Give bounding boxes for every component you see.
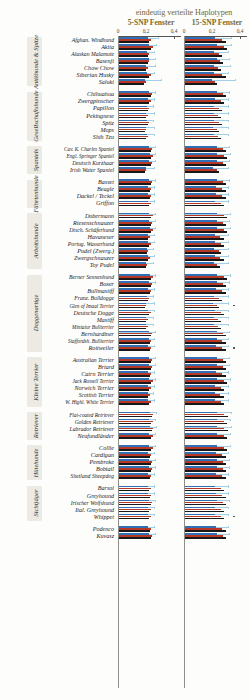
error-bar-cap: [154, 127, 155, 129]
error-bar-cap: [231, 426, 232, 428]
table-row: [119, 485, 181, 492]
error-bar-cap: [230, 445, 231, 447]
breed-label: Dackel / Teckel: [44, 193, 114, 200]
breed-label: Franz. Bulldogge: [44, 295, 114, 302]
error-bar-cap: [155, 146, 156, 148]
data-bar: [185, 238, 224, 240]
data-bar: [185, 131, 219, 133]
breed-label: Zwergschnauzer: [44, 255, 114, 262]
data-bar: [185, 292, 226, 294]
table-row: [185, 513, 247, 520]
table-row: [185, 262, 247, 269]
error-bar-cap: [229, 281, 230, 283]
error-bar-cap: [155, 445, 156, 447]
table-row: [119, 91, 181, 98]
table-row: [185, 302, 247, 309]
data-bar: [185, 110, 222, 112]
breed-label: Collie: [44, 445, 114, 452]
data-bar: [185, 423, 227, 425]
breed-label: Havaneser: [44, 234, 114, 241]
breed-label: Shih Tzu: [44, 134, 114, 141]
breed-label: Mastiff: [44, 317, 114, 324]
error-bar-cap: [155, 357, 156, 359]
table-row: [185, 112, 247, 119]
table-row: [119, 378, 181, 385]
data-bar: [185, 102, 224, 104]
breed-label: Cav. K. Charles Spaniel: [44, 146, 114, 153]
table-row: [119, 357, 181, 364]
table-row: [119, 37, 181, 44]
breed-label: Engl. Springer Spaniel: [44, 153, 114, 160]
table-row: [185, 241, 247, 248]
breed-label: Cardigan: [44, 452, 114, 459]
table-row: [185, 533, 247, 540]
data-bar: [119, 95, 151, 97]
data-bar: [185, 266, 220, 268]
outlier-point: [233, 516, 234, 517]
error-bar-cap: [155, 227, 156, 229]
table-row: [119, 345, 181, 352]
table-row: [119, 186, 181, 193]
table-row: [185, 248, 247, 255]
table-row: [185, 234, 247, 241]
error-bar-cap: [155, 91, 156, 93]
breed-label: Saluki: [44, 79, 114, 86]
error-bar-cap: [155, 378, 156, 380]
breed-label: Whippet: [44, 514, 114, 521]
table-row: [119, 323, 181, 330]
error-bar-cap: [154, 241, 155, 243]
data-bar: [119, 238, 148, 240]
table-row: [185, 378, 247, 385]
breed-label: Norwich Terrier: [44, 385, 114, 392]
table-row: [119, 281, 181, 288]
error-bar-cap: [229, 466, 230, 468]
error-bar-cap: [153, 392, 154, 394]
data-bar: [119, 335, 151, 337]
error-bar-cap: [154, 255, 155, 257]
error-bar-cap: [155, 433, 156, 435]
table-row: [185, 371, 247, 378]
error-bar-cap: [230, 419, 231, 421]
data-bar: [119, 321, 146, 323]
error-bar-cap: [154, 134, 155, 136]
table-row: [185, 466, 247, 473]
data-bar: [185, 197, 226, 199]
data-bar: [119, 403, 149, 405]
breed-label: Miniatur Bullterrier: [44, 324, 114, 331]
data-bar: [119, 259, 148, 261]
error-bar-cap: [155, 220, 156, 222]
data-bar: [119, 69, 146, 71]
table-row: [119, 167, 181, 174]
table-row: [119, 316, 181, 323]
data-bar: [119, 511, 149, 513]
error-bar-cap: [154, 399, 155, 401]
table-row: [185, 58, 247, 65]
error-bar-cap: [228, 452, 229, 454]
data-bar: [119, 292, 150, 294]
data-bar: [119, 110, 148, 112]
data-bar: [185, 69, 221, 71]
data-bar: [119, 504, 151, 506]
error-bar-cap: [228, 248, 229, 250]
outlier-point: [233, 305, 234, 306]
data-bar: [185, 518, 224, 520]
axis-tick-label: 0,2: [143, 28, 150, 34]
data-bar: [185, 285, 226, 287]
plot-panel-15snp: [184, 36, 247, 688]
table-row: [119, 533, 181, 540]
table-row: [119, 295, 181, 302]
table-row: [185, 213, 247, 220]
table-row: [119, 385, 181, 392]
data-bar: [119, 300, 148, 302]
table-row: [185, 119, 247, 126]
error-bar-cap: [235, 79, 236, 81]
table-row: [185, 392, 247, 399]
breed-label: Podenco: [44, 526, 114, 533]
data-bar: [185, 76, 226, 78]
breed-label: Berner Sennenhund: [44, 274, 114, 281]
error-bar-cap: [230, 65, 231, 67]
breed-label: Riesenschnauzer: [44, 220, 114, 227]
breed-label: Griffon: [44, 200, 114, 207]
error-bar-cap: [229, 220, 230, 222]
table-row: [119, 338, 181, 345]
